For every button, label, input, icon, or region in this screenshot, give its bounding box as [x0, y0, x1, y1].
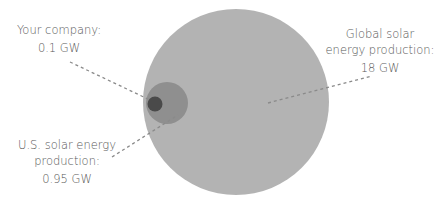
global-label-title-1: Global solar: [318, 26, 442, 42]
global-label-value: 18 GW: [318, 60, 442, 76]
company-label: Your company: 0.1 GW: [14, 22, 104, 56]
company-label-value: 0.1 GW: [14, 40, 104, 56]
us-label-title-1: U.S. solar energy: [8, 137, 126, 153]
us-label-title-2: production:: [8, 153, 126, 169]
company-leader-line: [70, 62, 150, 100]
global-label-title-2: energy production:: [318, 42, 442, 58]
company-circle: [148, 97, 163, 112]
global-label: Global solar energy production: 18 GW: [318, 26, 442, 76]
us-label-value: 0.95 GW: [8, 171, 126, 187]
company-label-title: Your company:: [14, 22, 104, 38]
us-label: U.S. solar energy production: 0.95 GW: [8, 137, 126, 187]
